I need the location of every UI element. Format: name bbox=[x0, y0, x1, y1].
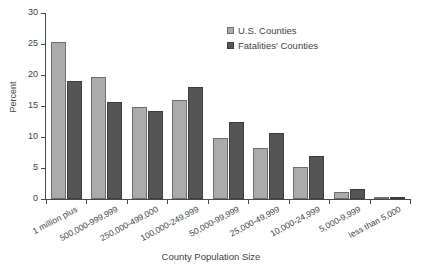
bar-group bbox=[172, 13, 203, 199]
bar-fatalities-counties bbox=[269, 133, 284, 199]
y-axis-tick-label: 0 bbox=[0, 194, 38, 203]
x-axis-tick bbox=[248, 199, 249, 204]
bar-chart-figure: Percent 051015202530 1 million plus500,0… bbox=[0, 0, 422, 271]
bar-group bbox=[334, 13, 365, 199]
bar-fatalities-counties bbox=[107, 102, 122, 199]
y-axis-tick-label-wrap: 10 bbox=[0, 132, 38, 141]
y-axis-tick-label-wrap: 20 bbox=[0, 70, 38, 79]
y-axis-tick-label: 25 bbox=[0, 39, 38, 48]
legend-item-label: U.S. Counties bbox=[238, 26, 297, 36]
y-axis-tick-label: 20 bbox=[0, 70, 38, 79]
bar-us-counties bbox=[334, 192, 349, 199]
y-axis-tick-label: 5 bbox=[0, 163, 38, 172]
bar-group bbox=[132, 13, 163, 199]
bar-us-counties bbox=[253, 148, 268, 199]
y-axis-tick-label: 15 bbox=[0, 101, 38, 110]
x-axis-line bbox=[45, 199, 411, 200]
y-axis-tick-label: 10 bbox=[0, 132, 38, 141]
y-axis-tick-label-wrap: 30 bbox=[0, 8, 38, 17]
bar-fatalities-counties bbox=[148, 111, 163, 199]
y-axis-tick-label-wrap: 0 bbox=[0, 194, 38, 203]
bar-fatalities-counties bbox=[390, 197, 405, 199]
bar-us-counties bbox=[374, 197, 389, 199]
dark-gray-square-icon bbox=[227, 42, 234, 49]
x-axis-tick bbox=[127, 199, 128, 204]
bar-us-counties bbox=[51, 42, 66, 199]
bar-fatalities-counties bbox=[350, 189, 365, 199]
x-axis-tick bbox=[370, 199, 371, 204]
x-axis-tick bbox=[410, 199, 411, 204]
bar-group bbox=[374, 13, 405, 199]
x-axis-tick bbox=[46, 199, 47, 204]
legend-item: Fatalities' Counties bbox=[227, 39, 318, 52]
bar-group bbox=[51, 13, 82, 199]
bar-fatalities-counties bbox=[67, 81, 82, 199]
bar-us-counties bbox=[213, 138, 228, 199]
y-axis-tick-label-wrap: 5 bbox=[0, 163, 38, 172]
bar-us-counties bbox=[132, 107, 147, 199]
bar-group bbox=[91, 13, 122, 199]
y-axis-tick-label-wrap: 15 bbox=[0, 101, 38, 110]
y-axis-tick-label-wrap: 25 bbox=[0, 39, 38, 48]
x-axis-tick bbox=[329, 199, 330, 204]
legend-item-label: Fatalities' Counties bbox=[238, 41, 318, 51]
bar-fatalities-counties bbox=[309, 156, 324, 199]
bar-fatalities-counties bbox=[229, 122, 244, 199]
bar-us-counties bbox=[172, 100, 187, 199]
legend-item: U.S. Counties bbox=[227, 24, 318, 37]
x-axis-title: County Population Size bbox=[0, 251, 422, 262]
x-axis-tick bbox=[208, 199, 209, 204]
bar-us-counties bbox=[91, 77, 106, 199]
y-axis-tick-label: 30 bbox=[0, 8, 38, 17]
chart-legend: U.S. CountiesFatalities' Counties bbox=[227, 24, 318, 54]
bar-fatalities-counties bbox=[188, 87, 203, 199]
bar-us-counties bbox=[293, 167, 308, 199]
light-gray-square-icon bbox=[227, 27, 234, 34]
x-axis-tick bbox=[289, 199, 290, 204]
x-axis-tick bbox=[86, 199, 87, 204]
x-axis-tick bbox=[167, 199, 168, 204]
